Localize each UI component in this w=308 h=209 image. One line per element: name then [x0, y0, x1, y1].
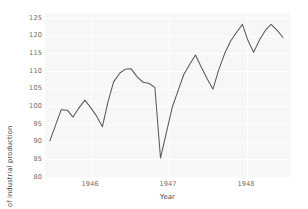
- x-axis-tick-label: 1948: [226, 181, 266, 188]
- y-axis-tick-label: 120: [0, 32, 42, 39]
- y-axis-tick-label: 125: [0, 15, 42, 22]
- chart-figure: 125 120 115 110 105 100 95 90 85 80 Inde…: [0, 0, 308, 209]
- x-axis-tick-label: 1946: [70, 181, 110, 188]
- y-axis-tick-label: 115: [0, 50, 42, 57]
- y-axis-title: Index of industrial production: [5, 95, 15, 209]
- x-axis-tick-label: 1947: [148, 181, 188, 188]
- series-polyline: [50, 24, 283, 158]
- x-axis-title: Year: [45, 193, 290, 201]
- y-axis-tick-label: 105: [0, 85, 42, 92]
- plot-area: [45, 13, 290, 177]
- y-axis-tick-label: 110: [0, 68, 42, 75]
- data-line-series: [45, 13, 290, 177]
